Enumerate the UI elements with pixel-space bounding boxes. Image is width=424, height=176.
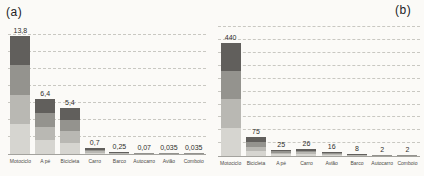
chart-a-xaxis-labels: MotocicloA péBicicletaCarroBarcoAutocarr… <box>8 155 206 167</box>
gridline <box>8 51 206 52</box>
value-label-b-2: 25 <box>269 141 294 148</box>
gridline <box>8 34 206 35</box>
bar-a-4 <box>109 152 129 154</box>
gridline <box>218 65 420 66</box>
value-label-b-6: 2 <box>370 146 395 153</box>
bar-b-1 <box>246 137 266 156</box>
value-label-a-5: 0,07 <box>132 144 157 151</box>
x-axis-label-a-6: Avião <box>157 158 182 164</box>
x-axis-label-b-0: Motociclo <box>218 160 243 166</box>
gridline <box>218 78 420 79</box>
bar-a-3 <box>85 148 105 154</box>
figure-two-bar-charts: (a) (b) 13,86,45,40,70,250,070,0350,035 … <box>0 0 424 176</box>
value-label-a-1: 6,4 <box>33 90 58 97</box>
bar-a-6 <box>159 153 179 155</box>
chart-a: 13,86,45,40,70,250,070,0350,035 Motocicl… <box>8 26 206 167</box>
bar-a-2 <box>60 108 80 154</box>
x-axis-label-a-4: Barco <box>107 158 132 164</box>
x-axis-label-b-3: Carro <box>294 160 319 166</box>
bar-b-4 <box>322 152 342 156</box>
x-axis-label-a-7: Comboio <box>181 158 206 164</box>
bar-b-6 <box>372 155 392 157</box>
value-label-b-4: 16 <box>319 143 344 150</box>
panel-label-a: (a) <box>6 5 22 19</box>
value-label-a-0: 13,8 <box>8 27 33 34</box>
gridline <box>218 26 420 27</box>
value-label-a-2: 5,4 <box>58 99 83 106</box>
x-axis-label-b-5: Barco <box>344 160 369 166</box>
x-axis-label-a-3: Carro <box>82 158 107 164</box>
gridline <box>8 68 206 69</box>
value-label-b-3: 26 <box>294 140 319 147</box>
panel-label-b: (b) <box>395 3 411 17</box>
value-label-a-3: 0,7 <box>82 139 107 146</box>
gridline <box>218 39 420 40</box>
chart-a-plot: 13,86,45,40,70,250,070,0350,035 <box>8 26 206 155</box>
bar-a-0 <box>10 36 30 154</box>
x-axis-label-b-4: Avião <box>319 160 344 166</box>
value-label-b-0: 440 <box>218 34 243 41</box>
chart-b: 44075252616822 MotocicloBicicletaA péCar… <box>218 22 420 169</box>
x-axis-label-a-1: A pé <box>33 158 58 164</box>
x-axis-label-b-1: Bicicleta <box>243 160 268 166</box>
bar-a-1 <box>35 99 55 154</box>
bar-b-2 <box>271 150 291 156</box>
x-axis-label-b-6: Autocarro <box>370 160 395 166</box>
chart-b-plot: 44075252616822 <box>218 22 420 157</box>
value-label-b-5: 8 <box>344 145 369 152</box>
x-axis-label-b-2: A pé <box>269 160 294 166</box>
gridline <box>218 52 420 53</box>
bar-b-0 <box>221 43 241 156</box>
x-axis-label-a-0: Motociclo <box>8 158 33 164</box>
bar-a-5 <box>134 153 154 155</box>
chart-b-xaxis-labels: MotocicloBicicletaA péCarroAviãoBarcoAut… <box>218 157 420 169</box>
bar-b-5 <box>347 154 367 156</box>
x-axis-label-a-5: Autocarro <box>132 158 157 164</box>
gridline <box>218 91 420 92</box>
x-axis-label-a-2: Bicicleta <box>58 158 83 164</box>
gridline <box>218 116 420 117</box>
value-label-a-7: 0,035 <box>181 144 206 151</box>
bar-b-3 <box>296 149 316 156</box>
value-label-a-6: 0,035 <box>157 144 182 151</box>
value-label-b-1: 75 <box>243 128 268 135</box>
bar-b-7 <box>397 155 417 157</box>
x-axis-label-b-7: Comboio <box>395 160 420 166</box>
value-label-b-7: 2 <box>395 146 420 153</box>
gridline <box>8 85 206 86</box>
value-label-a-4: 0,25 <box>107 143 132 150</box>
gridline <box>218 104 420 105</box>
bar-a-7 <box>184 153 204 155</box>
